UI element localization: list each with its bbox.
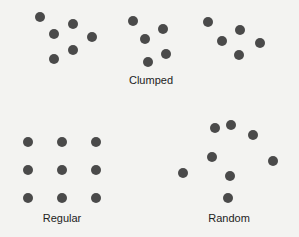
- regular-dot: [23, 137, 33, 147]
- clumped-dot: [161, 49, 171, 59]
- clumped-dot: [203, 17, 213, 27]
- regular-dot: [57, 137, 67, 147]
- random-dot: [225, 171, 235, 181]
- clumped-dot: [255, 38, 265, 48]
- dispersion-patterns-diagram: Clumped Regular Random: [0, 0, 299, 237]
- random-dot: [210, 123, 220, 133]
- clumped-dot: [143, 57, 153, 67]
- regular-dot: [91, 165, 101, 175]
- regular-dot: [23, 165, 33, 175]
- clumped-dot: [158, 24, 168, 34]
- random-dot: [226, 120, 236, 130]
- clumped-dot: [128, 16, 138, 26]
- random-dot: [248, 130, 258, 140]
- regular-dot: [91, 193, 101, 203]
- clumped-dot: [140, 34, 150, 44]
- clumped-dot: [68, 45, 78, 55]
- regular-label: Regular: [43, 212, 82, 224]
- random-dot: [207, 152, 217, 162]
- regular-dot: [23, 193, 33, 203]
- random-dot: [223, 193, 233, 203]
- regular-dot: [57, 165, 67, 175]
- clumped-label: Clumped: [129, 74, 173, 86]
- regular-dot: [91, 137, 101, 147]
- clumped-dot: [68, 19, 78, 29]
- clumped-dot: [35, 12, 45, 22]
- random-label: Random: [208, 212, 250, 224]
- regular-dot: [57, 193, 67, 203]
- clumped-dot: [234, 50, 244, 60]
- clumped-dot: [87, 32, 97, 42]
- clumped-dot: [235, 25, 245, 35]
- random-dot: [178, 168, 188, 178]
- clumped-dot: [49, 29, 59, 39]
- random-dot: [268, 156, 278, 166]
- clumped-dot: [49, 54, 59, 64]
- clumped-dot: [217, 36, 227, 46]
